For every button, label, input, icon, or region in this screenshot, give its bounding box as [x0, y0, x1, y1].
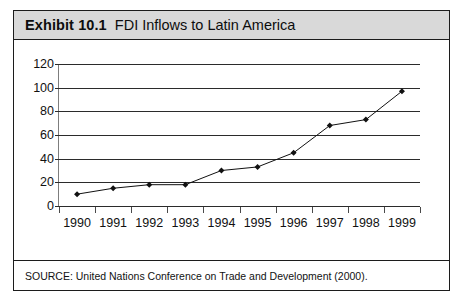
- y-axis-tick-mark: [55, 159, 59, 160]
- source-note-text: SOURCE: United Nations Conference on Tra…: [25, 270, 368, 282]
- y-axis-tick-label: 80: [20, 104, 54, 118]
- series-line: [77, 91, 402, 194]
- x-axis-tick-mark: [167, 207, 168, 213]
- x-axis-tick-label: 1992: [135, 216, 163, 230]
- y-axis-tick-label: 20: [20, 175, 54, 189]
- data-point-marker: [182, 182, 188, 188]
- exhibit-frame: Exhibit 10.1 FDI Inflows to Latin Americ…: [13, 10, 450, 291]
- x-axis-tick-mark: [203, 207, 204, 213]
- x-axis-tick-label: 1990: [63, 216, 91, 230]
- chart-plot-container: 020406080100120 199019911992199319941995…: [14, 40, 449, 262]
- data-point-marker: [146, 182, 152, 188]
- x-axis-tick-mark: [131, 207, 132, 213]
- data-point-marker: [255, 164, 261, 170]
- x-axis-tick-mark: [312, 207, 313, 213]
- y-axis-tick-mark: [55, 111, 59, 112]
- x-axis-tick-label: 1994: [208, 216, 236, 230]
- x-axis-tick-mark: [420, 207, 421, 213]
- y-axis-tick-mark: [55, 135, 59, 136]
- x-axis-tick-mark: [59, 207, 60, 213]
- x-axis-tick-label: 1996: [280, 216, 308, 230]
- y-axis-tick-mark: [55, 182, 59, 183]
- exhibit-title: FDI Inflows to Latin America: [115, 17, 296, 33]
- x-axis-tick-mark: [240, 207, 241, 213]
- y-axis-tick-mark: [55, 88, 59, 89]
- x-axis-tick-mark: [276, 207, 277, 213]
- y-axis-tick-mark: [55, 64, 59, 65]
- data-point-marker: [74, 191, 80, 197]
- x-axis-tick-mark: [384, 207, 385, 213]
- y-axis-tick-label: 120: [20, 57, 54, 71]
- x-axis-tick-mark: [95, 207, 96, 213]
- x-axis-tick-label: 1993: [171, 216, 199, 230]
- y-axis-tick-label: 100: [20, 81, 54, 95]
- y-axis-tick-labels: 020406080100120: [14, 64, 54, 206]
- exhibit-header: Exhibit 10.1 FDI Inflows to Latin Americ…: [14, 11, 449, 40]
- x-axis-tick-marks: [59, 207, 420, 214]
- x-axis-tick-label: 1998: [352, 216, 380, 230]
- data-point-marker: [218, 168, 224, 174]
- y-axis-tick-label: 40: [20, 152, 54, 166]
- y-axis-tick-label: 0: [20, 199, 54, 213]
- data-point-marker: [110, 185, 116, 191]
- y-axis-tick-label: 60: [20, 128, 54, 142]
- source-note-band: SOURCE: United Nations Conference on Tra…: [14, 260, 449, 290]
- y-axis-tick-mark: [55, 206, 59, 207]
- x-axis-tick-mark: [348, 207, 349, 213]
- exhibit-number-label: Exhibit 10.1: [25, 17, 107, 33]
- x-axis-tick-labels: 1990199119921993199419951996199719981999: [59, 216, 420, 234]
- x-axis-tick-label: 1997: [316, 216, 344, 230]
- x-axis-tick-label: 1991: [99, 216, 127, 230]
- x-axis-tick-label: 1995: [244, 216, 272, 230]
- x-axis-tick-label: 1999: [388, 216, 416, 230]
- fdi-inflows-line-series: [59, 64, 420, 206]
